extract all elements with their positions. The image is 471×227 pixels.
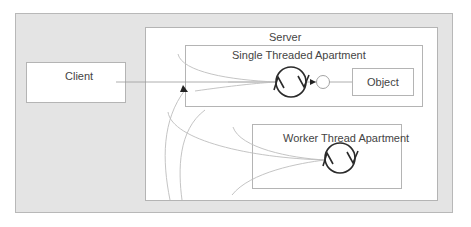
return-curve [180, 110, 205, 200]
curve [232, 160, 325, 195]
return-arrowhead-icon [180, 85, 188, 92]
curve [168, 112, 325, 160]
curve [178, 54, 276, 82]
sta-message-loop-icon [274, 67, 309, 97]
interface-circle [317, 76, 330, 89]
curve [233, 127, 325, 160]
curve [195, 82, 276, 91]
arrowhead-icon [310, 79, 316, 85]
return-curve [165, 90, 185, 200]
connector-overlay [0, 0, 471, 227]
wta-message-loop-icon [323, 143, 358, 173]
